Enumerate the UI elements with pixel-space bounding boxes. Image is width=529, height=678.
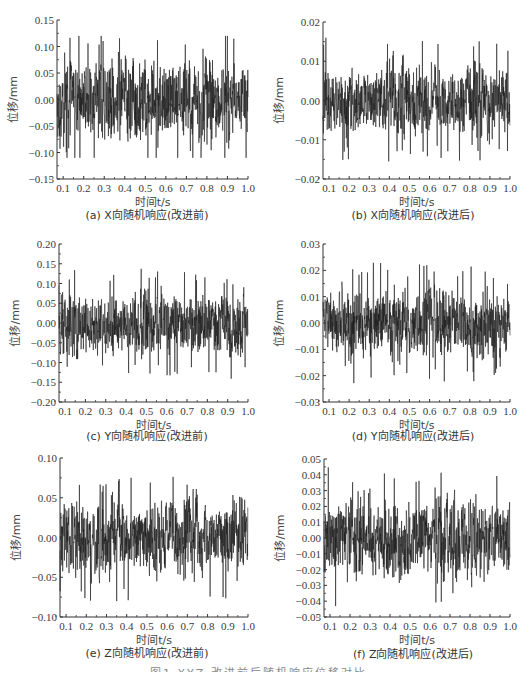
y-tick-label: −0.01 [295, 134, 320, 146]
x-tick-label: 0.9 [221, 405, 235, 417]
x-tick-label: 0.8 [200, 405, 214, 417]
y-tick-label: 0.15 [35, 14, 55, 26]
y-tick-label: −0.10 [32, 611, 58, 623]
x-tick-label: 0.7 [180, 405, 194, 417]
y-tick-label: −0.20 [31, 396, 57, 408]
x-tick-label: 1.0 [503, 620, 517, 632]
y-tick-label: −0.05 [32, 571, 58, 583]
y-tick-label: 0.10 [38, 452, 58, 464]
chart-caption-f: (f) Z向随机响应(改进后) [353, 645, 473, 661]
y-tick-label: 0.10 [37, 278, 57, 290]
x-tick-label: 0.9 [221, 182, 235, 194]
chart-d-svg: −0.03−0.02−0.010.000.010.020.030.10.20.3… [265, 220, 529, 425]
x-tick-label: 0.5 [138, 182, 152, 194]
x-tick-label: 0.6 [160, 620, 174, 632]
x-tick-label: 0.1 [56, 182, 70, 194]
y-tick-label: −0.02 [295, 173, 320, 185]
x-tick-label: 1.0 [503, 405, 517, 417]
y-axis-title: 位移/mm [272, 299, 286, 346]
y-tick-label: 0.01 [302, 516, 321, 528]
y-axis-title: 位移/mm [6, 76, 20, 123]
chart-panel-c: −0.20−0.15−0.10−0.050.000.050.100.150.20… [0, 220, 265, 440]
chart-c-svg: −0.20−0.15−0.10−0.050.000.050.100.150.20… [0, 220, 265, 425]
y-axis-title: 位移/mm [273, 514, 287, 561]
y-tick-label: 0.03 [302, 485, 322, 497]
x-tick-label: 0.2 [342, 405, 356, 417]
x-tick-label: 0.5 [140, 620, 154, 632]
x-tick-label: 0.5 [403, 405, 417, 417]
y-tick-label: −0.05 [31, 337, 57, 349]
y-tick-label: 0.01 [301, 55, 320, 67]
x-tick-label: 0.6 [160, 405, 174, 417]
x-tick-label: 0.4 [382, 405, 396, 417]
x-tick-label: 0.7 [180, 182, 194, 194]
signal-trace [60, 477, 248, 601]
x-tick-label: 1.0 [503, 182, 517, 194]
y-tick-label: 0.20 [37, 238, 57, 250]
x-tick-label: 1.0 [241, 405, 255, 417]
x-tick-label: 0.8 [463, 620, 477, 632]
x-tick-label: 0.9 [483, 405, 497, 417]
x-tick-label: 0.3 [99, 405, 113, 417]
chart-panel-e: −0.10−0.050.000.050.100.10.20.30.40.50.6… [0, 440, 265, 665]
x-tick-label: 0.4 [383, 620, 397, 632]
y-tick-label: 0.05 [302, 453, 322, 465]
y-tick-label: −0.15 [31, 376, 57, 388]
chart-panel-b: −0.02−0.010.000.010.020.10.20.30.40.50.6… [265, 0, 529, 220]
x-tick-label: 0.1 [59, 620, 73, 632]
x-tick-label: 0.2 [77, 182, 91, 194]
chart-b-svg: −0.02−0.010.000.010.020.10.20.30.40.50.6… [265, 0, 529, 205]
y-tick-label: 0.10 [35, 41, 55, 53]
y-tick-label: 0.00 [302, 532, 322, 544]
x-tick-label: 1.0 [241, 182, 255, 194]
y-tick-label: −0.04 [296, 595, 322, 607]
y-tick-label: −0.10 [29, 147, 55, 159]
y-tick-label: −0.05 [296, 611, 322, 623]
x-tick-label: 0.1 [58, 405, 72, 417]
signal-trace [57, 36, 248, 158]
x-tick-label: 0.2 [79, 405, 93, 417]
chart-panel-f: −0.05−0.04−0.03−0.02−0.010.000.010.020.0… [265, 440, 529, 665]
y-tick-label: −0.03 [295, 396, 321, 408]
y-tick-label: −0.01 [296, 548, 321, 560]
x-tick-label: 0.3 [97, 182, 111, 194]
x-tick-label: 0.6 [423, 620, 437, 632]
x-tick-label: 0.8 [200, 182, 214, 194]
y-tick-label: −0.15 [29, 173, 55, 185]
y-axis-title: 位移/mm [9, 514, 23, 561]
y-axis-title: 位移/mm [8, 299, 22, 346]
x-tick-label: 0.7 [443, 620, 457, 632]
chart-a-svg: −0.15−0.10−0.050.000.050.100.150.10.20.3… [0, 0, 265, 205]
y-tick-label: 0.15 [37, 258, 57, 270]
x-tick-label: 0.2 [79, 620, 93, 632]
y-tick-label: 0.03 [301, 238, 321, 250]
x-tick-label: 0.4 [119, 405, 133, 417]
x-tick-label: 0.7 [443, 405, 457, 417]
chart-panel-d: −0.03−0.02−0.010.000.010.020.030.10.20.3… [265, 220, 529, 440]
x-tick-label: 0.1 [323, 620, 337, 632]
x-tick-label: 0.6 [423, 182, 437, 194]
signal-trace [323, 263, 510, 383]
x-tick-label: 0.4 [118, 182, 132, 194]
y-tick-label: 0.00 [301, 317, 321, 329]
y-tick-label: −0.10 [31, 357, 57, 369]
y-tick-label: 0.00 [38, 532, 58, 544]
x-tick-label: 0.2 [342, 182, 356, 194]
y-tick-label: 0.02 [301, 16, 320, 28]
y-tick-label: 0.01 [301, 291, 320, 303]
x-tick-label: 0.3 [363, 620, 377, 632]
chart-f-svg: −0.05−0.04−0.03−0.02−0.010.000.010.020.0… [265, 440, 529, 645]
x-tick-label: 0.3 [362, 182, 376, 194]
x-tick-label: 0.8 [463, 405, 477, 417]
x-tick-label: 0.3 [100, 620, 114, 632]
y-tick-label: 0.02 [301, 264, 320, 276]
x-tick-label: 0.9 [221, 620, 235, 632]
y-tick-label: −0.01 [295, 343, 320, 355]
x-tick-label: 0.4 [120, 620, 134, 632]
chart-caption-e: (e) Z向随机响应(改进前) [86, 644, 209, 660]
signal-trace [59, 269, 248, 379]
signal-trace [324, 467, 510, 606]
x-tick-label: 0.1 [322, 182, 336, 194]
y-tick-label: −0.02 [296, 564, 321, 576]
y-tick-label: 0.05 [35, 67, 55, 79]
